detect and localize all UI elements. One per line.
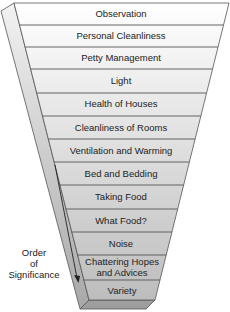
pyramid-bottom-face — [80, 300, 155, 309]
axis-label-line1: Order — [4, 247, 64, 258]
level-cleanliness-of-rooms: Cleanliness of Rooms — [75, 123, 167, 133]
level-petty-management: Petty Management — [81, 53, 161, 63]
level-light: Light — [111, 76, 132, 86]
level-health-of-houses: Health of Houses — [85, 99, 158, 109]
axis-label-line2: of — [4, 258, 64, 269]
axis-label-line3: Significance — [4, 269, 64, 280]
level-ventilation-and-warming: Ventilation and Warming — [70, 146, 173, 156]
level-personal-cleanliness: Personal Cleanliness — [76, 31, 165, 41]
level-bed-and-bedding: Bed and Bedding — [85, 169, 158, 179]
order-of-significance-label: Order of Significance — [4, 247, 64, 280]
level-taking-food: Taking Food — [95, 192, 147, 202]
level-chattering-hopes: Chattering Hopes — [85, 257, 159, 267]
level-chattering-hopes-line2: and Advices — [96, 268, 147, 278]
level-noise: Noise — [109, 239, 133, 249]
level-observation: Observation — [95, 9, 146, 19]
level-variety: Variety — [108, 286, 137, 296]
level-what-food: What Food? — [95, 216, 147, 226]
